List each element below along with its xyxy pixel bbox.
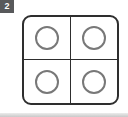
page-number-label: 2 xyxy=(4,2,9,11)
grid-cell xyxy=(71,60,118,103)
grid-cell xyxy=(24,60,71,103)
grid-cell xyxy=(71,17,118,60)
page-thumbnail[interactable]: 2 xyxy=(0,0,128,117)
bottom-edge-bar xyxy=(0,113,128,117)
circle-shape xyxy=(35,70,59,94)
circle-shape xyxy=(82,70,106,94)
page-number-badge: 2 xyxy=(0,0,14,13)
circle-shape xyxy=(82,26,106,50)
circle-shape xyxy=(35,26,59,50)
grid-cell xyxy=(24,17,71,60)
slide-card xyxy=(22,15,119,105)
